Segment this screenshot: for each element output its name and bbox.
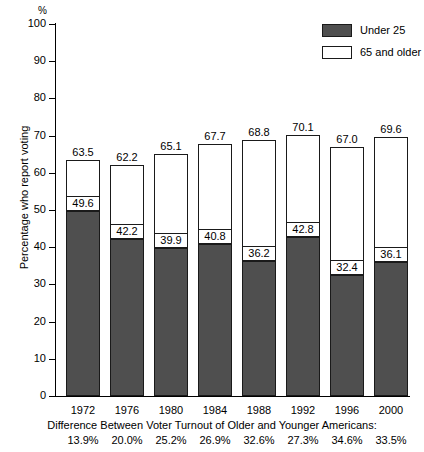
bar-value-label-under-25: 49.6 <box>66 196 100 211</box>
y-tick-mark <box>49 210 55 211</box>
y-tick-mark <box>49 247 55 248</box>
y-tick-label: 60 <box>0 167 46 178</box>
x-tick-label: 1996 <box>322 404 372 416</box>
y-tick-label: 90 <box>0 55 46 66</box>
bar-value-label-under-25: 42.8 <box>286 222 320 237</box>
y-tick-label: 0 <box>0 390 46 401</box>
bar-segment-under-25 <box>286 237 320 396</box>
y-tick-mark <box>49 284 55 285</box>
x-axis-line <box>55 396 410 397</box>
bar-value-label-under-25: 40.8 <box>198 229 232 244</box>
y-axis-unit-symbol: % <box>38 6 47 16</box>
x-tick-label: 1972 <box>58 404 108 416</box>
difference-value: 26.9% <box>190 434 240 446</box>
bar-value-label-older: 65.1 <box>146 140 196 152</box>
difference-caption: Difference Between Voter Turnout of Olde… <box>0 419 424 431</box>
bar-value-label-under-25: 42.2 <box>110 224 144 239</box>
bar-value-label-under-25: 39.9 <box>154 233 188 248</box>
bar-group: 67.032.4 <box>330 147 364 396</box>
bar-segment-under-25 <box>110 239 144 396</box>
y-axis-line <box>55 23 56 397</box>
bar-value-label-under-25: 36.1 <box>374 247 408 262</box>
bar-value-label-under-25: 36.2 <box>242 246 276 261</box>
bar-group: 70.142.8 <box>286 135 320 396</box>
bar-value-label-older: 63.5 <box>58 146 108 158</box>
y-tick-mark <box>49 61 55 62</box>
legend-swatch-hollow-icon <box>322 46 352 59</box>
x-tick-label: 1984 <box>190 404 240 416</box>
y-tick-label: 100 <box>0 18 46 29</box>
bar-segment-under-25 <box>198 244 232 396</box>
y-tick-label: 40 <box>0 241 46 252</box>
y-tick-mark <box>49 98 55 99</box>
bar-value-label-older: 68.8 <box>234 126 284 138</box>
y-tick-label: 20 <box>0 316 46 327</box>
bar-segment-under-25 <box>154 248 188 396</box>
legend-swatch-filled-icon <box>322 24 352 37</box>
bar-segment-under-25 <box>66 211 100 396</box>
bar-value-label-older: 67.7 <box>190 130 240 142</box>
y-tick-label: 80 <box>0 92 46 103</box>
legend-item-under-25: Under 25 <box>322 22 422 44</box>
difference-value: 34.6% <box>322 434 372 446</box>
bar-value-label-under-25: 32.4 <box>330 260 364 275</box>
bar-segment-under-25 <box>242 261 276 396</box>
bar-value-label-older: 67.0 <box>322 133 372 145</box>
y-tick-mark <box>49 24 55 25</box>
bar-value-label-older: 69.6 <box>366 123 416 135</box>
difference-value: 33.5% <box>366 434 416 446</box>
legend: Under 25 65 and older <box>322 22 422 66</box>
y-tick-label: 30 <box>0 278 46 289</box>
difference-value: 13.9% <box>58 434 108 446</box>
bar-value-label-older: 70.1 <box>278 121 328 133</box>
difference-value: 27.3% <box>278 434 328 446</box>
legend-item-65-and-older: 65 and older <box>322 44 422 66</box>
bar-group: 65.139.9 <box>154 154 188 396</box>
y-tick-mark <box>49 173 55 174</box>
y-tick-label: 50 <box>0 204 46 215</box>
y-tick-label: 10 <box>0 353 46 364</box>
y-tick-mark <box>49 322 55 323</box>
bar-segment-under-25 <box>330 275 364 396</box>
difference-value: 25.2% <box>146 434 196 446</box>
legend-label-65-and-older: 65 and older <box>360 45 421 59</box>
x-tick-label: 1992 <box>278 404 328 416</box>
bar-group: 62.242.2 <box>110 165 144 396</box>
bar-group: 67.740.8 <box>198 144 232 396</box>
y-tick-mark <box>49 396 55 397</box>
bar-value-label-older: 62.2 <box>102 151 152 163</box>
x-tick-label: 1988 <box>234 404 284 416</box>
bar-group: 69.636.1 <box>374 137 408 396</box>
y-tick-mark <box>49 359 55 360</box>
x-tick-label: 1980 <box>146 404 196 416</box>
difference-value: 32.6% <box>234 434 284 446</box>
bar-segment-under-25 <box>374 262 408 396</box>
x-tick-label: 2000 <box>366 404 416 416</box>
bar-group: 68.836.2 <box>242 140 276 396</box>
bar-group: 63.549.6 <box>66 160 100 396</box>
difference-value: 20.0% <box>102 434 152 446</box>
voter-turnout-chart: % Percentage who report voting 010203040… <box>0 0 424 452</box>
y-axis-title: Percentage who report voting <box>19 88 30 308</box>
y-tick-mark <box>49 136 55 137</box>
legend-label-under-25: Under 25 <box>360 23 405 37</box>
x-tick-label: 1976 <box>102 404 152 416</box>
y-tick-label: 70 <box>0 130 46 141</box>
